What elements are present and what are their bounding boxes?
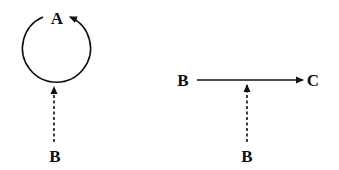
node-c-label: C	[307, 71, 319, 90]
node-a-label: A	[51, 9, 64, 28]
modifier-b-label-left: B	[49, 147, 60, 166]
right-panel: B C B	[177, 71, 319, 166]
modifier-b-label-right: B	[241, 147, 252, 166]
left-panel: A B	[23, 9, 91, 166]
node-b-source-label: B	[177, 71, 188, 90]
diagram-canvas: A B B C B	[0, 0, 339, 170]
